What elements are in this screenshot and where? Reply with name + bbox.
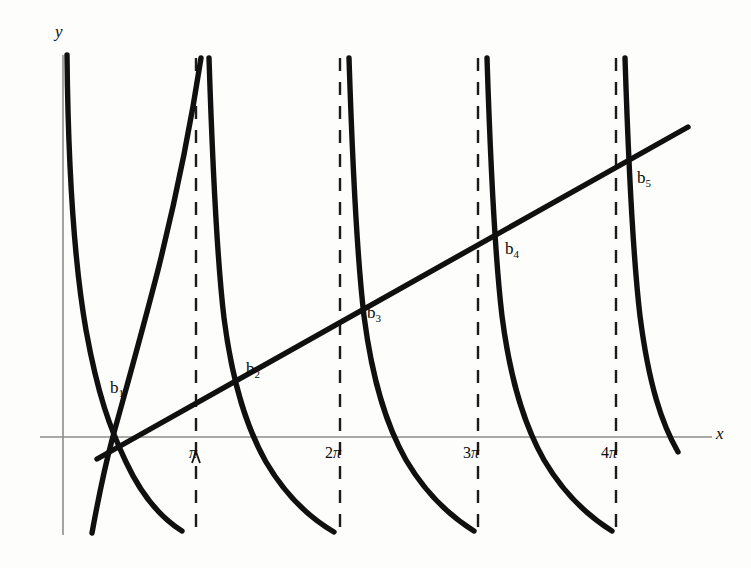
tangent-branch-5 (625, 58, 678, 452)
root-base-b2: b (246, 359, 255, 378)
root-sub-b3: 3 (376, 312, 382, 324)
root-sub-b2: 2 (255, 368, 261, 380)
x-axis-label: x (716, 424, 724, 444)
root-label-b4: b4 (505, 239, 519, 260)
tick-label-pi: π (189, 444, 197, 462)
pi-symbol-2: π (333, 444, 341, 461)
root-label-b1: b1 (110, 378, 124, 399)
tangent-branches-group (67, 55, 678, 533)
root-sub-b4: 4 (514, 248, 520, 260)
tangent-branch-4 (487, 58, 612, 531)
straight-line-group (97, 127, 688, 459)
tick-prefix-3pi: 3 (463, 444, 471, 461)
root-base-b5: b (637, 168, 646, 187)
tick-label-2pi: 2π (325, 444, 341, 462)
plot-svg (0, 0, 751, 568)
pi-symbol-4: π (609, 444, 617, 461)
pi-symbol-3: π (471, 444, 479, 461)
figure-canvas: y x π 2π 3π 4π b1 b2 b3 b4 b5 (0, 0, 751, 568)
tick-prefix-2pi: 2 (325, 444, 333, 461)
tangent-branch-3 (349, 58, 474, 531)
root-sub-b1: 1 (119, 387, 125, 399)
root-label-b5: b5 (637, 168, 651, 189)
tangent-branch-2 (209, 58, 334, 532)
straight-line (97, 127, 688, 459)
root-label-b2: b2 (246, 359, 260, 380)
tick-prefix-4pi: 4 (601, 444, 609, 461)
root-label-b3: b3 (367, 303, 381, 324)
tangent-branch-1 (92, 58, 201, 533)
root-base-b1: b (110, 378, 119, 397)
tick-label-3pi: 3π (463, 444, 479, 462)
root-sub-b5: 5 (646, 177, 652, 189)
tangent-branch-0-upper (67, 55, 182, 531)
pi-symbol-1: π (189, 444, 197, 461)
root-base-b4: b (505, 239, 514, 258)
axes-group (40, 55, 712, 535)
tick-label-4pi: 4π (601, 444, 617, 462)
root-base-b3: b (367, 303, 376, 322)
y-axis-label: y (55, 22, 63, 42)
